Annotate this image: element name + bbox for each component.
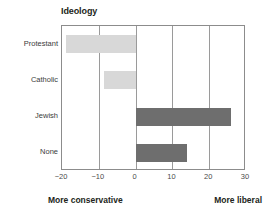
category-label-2: Jewish	[2, 111, 58, 120]
category-label-0: Protestant	[2, 39, 58, 48]
category-axis-labels: Protestant Catholic Jewish None	[0, 25, 58, 170]
category-label-3: None	[2, 147, 58, 156]
ideology-bar-chart: Ideology Protestant Catholic Jewish None…	[0, 0, 268, 217]
tick-label: 0	[120, 172, 150, 181]
annotation-more-liberal: More liberal	[214, 195, 262, 205]
category-label-1: Catholic	[2, 75, 58, 84]
tick-label: −20	[46, 172, 76, 181]
tick-label: −10	[83, 172, 113, 181]
annotation-more-conservative: More conservative	[48, 195, 123, 205]
tick-label: 10	[156, 172, 186, 181]
plot-area	[61, 25, 245, 170]
chart-title: Ideology	[61, 6, 97, 17]
bar-protestant	[66, 35, 136, 53]
bar-catholic	[104, 71, 135, 89]
bar-row	[62, 26, 244, 62]
bar-none	[136, 144, 188, 162]
tick-label: 20	[193, 172, 223, 181]
tick-label: 30	[230, 172, 260, 181]
bar-row	[62, 99, 244, 135]
bar-row	[62, 135, 244, 171]
value-axis-ticks: −20 −10 0 10 20 30	[61, 172, 245, 184]
bar-jewish	[136, 108, 232, 126]
bar-row	[62, 62, 244, 98]
